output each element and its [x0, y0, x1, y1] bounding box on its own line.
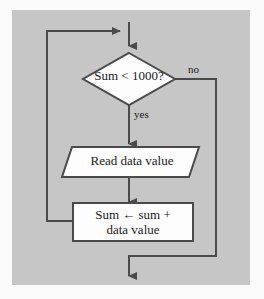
process-node-label: Sum ← sum + data value — [73, 208, 193, 237]
decision-node-label: Sum < 1000? — [74, 69, 184, 84]
flowchart-figure: Sum < 1000? Read data value Sum ← sum + … — [0, 0, 264, 299]
edge-loopback-to-entry — [47, 31, 120, 221]
flowchart-diagram — [0, 0, 264, 299]
edge-label-yes: yes — [134, 108, 149, 120]
process-node-label-line2: data value — [73, 223, 193, 238]
input-node-label: Read data value — [64, 154, 200, 169]
process-node-label-line1: Sum ← sum + — [73, 208, 193, 223]
edge-label-no: no — [188, 63, 199, 75]
